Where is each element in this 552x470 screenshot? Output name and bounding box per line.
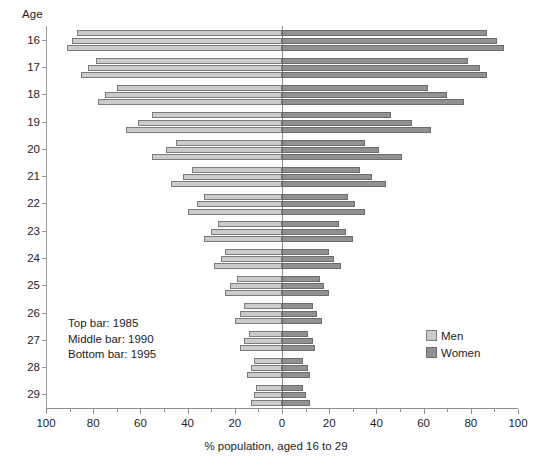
bar-order-note: Top bar: 1985 Middle bar: 1990 Bottom ba… xyxy=(68,316,156,363)
bar-men-age-19-1995 xyxy=(126,127,282,133)
x-tick-minor xyxy=(211,409,212,412)
bar-men-age-25-1995 xyxy=(225,290,282,296)
x-tick-label-80-right: 80 xyxy=(464,417,477,429)
y-tick-mark-29 xyxy=(42,394,46,395)
bar-women-age-26-1985 xyxy=(282,303,313,309)
bar-men-age-16-1990 xyxy=(72,38,282,44)
bar-men-age-21-1985 xyxy=(192,167,282,173)
bar-men-age-20-1990 xyxy=(166,147,282,153)
bar-women-age-28-1995 xyxy=(282,372,310,378)
note-line-3: Bottom bar: 1995 xyxy=(68,347,156,363)
x-tick-label-40-right: 40 xyxy=(370,417,383,429)
bar-women-age-29-1990 xyxy=(282,392,306,398)
bar-women-age-23-1995 xyxy=(282,236,353,242)
x-tick-minor xyxy=(494,409,495,412)
bar-men-age-29-1985 xyxy=(256,385,282,391)
bar-women-age-28-1985 xyxy=(282,358,303,364)
bar-men-age-17-1990 xyxy=(88,65,282,71)
bar-men-age-25-1985 xyxy=(237,276,282,282)
bar-women-age-17-1990 xyxy=(282,65,480,71)
y-tick-mark-17 xyxy=(42,67,46,68)
bar-men-age-22-1985 xyxy=(204,194,282,200)
x-tick-minor xyxy=(164,409,165,412)
bar-men-age-28-1995 xyxy=(247,372,282,378)
legend-swatch-women-icon xyxy=(426,347,437,358)
bar-men-age-27-1990 xyxy=(244,338,282,344)
x-tick-minor xyxy=(353,409,354,412)
bar-men-age-29-1995 xyxy=(251,400,282,406)
x-tick-80-right xyxy=(471,409,472,414)
bar-men-age-29-1990 xyxy=(254,392,282,398)
y-tick-mark-22 xyxy=(42,203,46,204)
bar-men-age-27-1985 xyxy=(249,331,282,337)
bar-women-age-16-1985 xyxy=(282,30,487,36)
bar-women-age-21-1985 xyxy=(282,167,360,173)
bar-men-age-23-1985 xyxy=(218,221,282,227)
bar-women-age-20-1985 xyxy=(282,140,365,146)
legend-label-men: Men xyxy=(441,330,463,342)
bar-men-age-26-1995 xyxy=(235,318,282,324)
bar-women-age-24-1995 xyxy=(282,263,341,269)
bar-women-age-18-1990 xyxy=(282,92,447,98)
x-tick-label-20-right: 20 xyxy=(323,417,336,429)
bar-women-age-26-1990 xyxy=(282,311,317,317)
bar-women-age-27-1985 xyxy=(282,331,308,337)
x-tick-label-40-left: 40 xyxy=(181,417,194,429)
bar-women-age-23-1990 xyxy=(282,229,346,235)
bar-men-age-20-1985 xyxy=(176,140,282,146)
x-tick-minor xyxy=(447,409,448,412)
x-tick-40-right xyxy=(376,409,377,414)
bar-men-age-18-1985 xyxy=(117,85,282,91)
y-tick-label-17: 17 xyxy=(14,61,40,73)
y-tick-mark-28 xyxy=(42,367,46,368)
bar-women-age-16-1990 xyxy=(282,38,497,44)
y-tick-label-20: 20 xyxy=(14,143,40,155)
legend: Men Women xyxy=(426,327,480,361)
y-tick-label-24: 24 xyxy=(14,252,40,264)
y-tick-mark-25 xyxy=(42,285,46,286)
bar-women-age-28-1990 xyxy=(282,365,308,371)
bar-women-age-18-1985 xyxy=(282,85,428,91)
population-pyramid-chart: Age 10080604020020406080100 161718192021… xyxy=(0,0,552,470)
x-tick-label-80-left: 80 xyxy=(87,417,100,429)
legend-label-women: Women xyxy=(441,347,480,359)
bar-women-age-24-1985 xyxy=(282,249,329,255)
bar-women-age-17-1995 xyxy=(282,72,487,78)
y-tick-label-25: 25 xyxy=(14,279,40,291)
y-tick-label-18: 18 xyxy=(14,88,40,100)
bar-men-age-23-1990 xyxy=(211,229,282,235)
x-tick-0-center xyxy=(282,409,283,414)
bar-women-age-19-1995 xyxy=(282,127,431,133)
bar-men-age-17-1995 xyxy=(81,72,282,78)
bar-men-age-26-1985 xyxy=(244,303,282,309)
bar-women-age-25-1985 xyxy=(282,276,320,282)
y-tick-label-19: 19 xyxy=(14,116,40,128)
bar-women-age-22-1990 xyxy=(282,201,355,207)
x-tick-label-60-left: 60 xyxy=(134,417,147,429)
x-tick-60-right xyxy=(424,409,425,414)
bar-men-age-22-1990 xyxy=(197,201,282,207)
y-tick-mark-19 xyxy=(42,122,46,123)
x-tick-100-left xyxy=(46,409,47,414)
bar-women-age-22-1985 xyxy=(282,194,348,200)
x-tick-60-left xyxy=(140,409,141,414)
bar-men-age-20-1995 xyxy=(152,154,282,160)
bar-women-age-25-1995 xyxy=(282,290,329,296)
bar-women-age-29-1985 xyxy=(282,385,303,391)
x-tick-label-100-right: 100 xyxy=(508,417,527,429)
x-tick-80-left xyxy=(93,409,94,414)
bar-women-age-21-1995 xyxy=(282,181,386,187)
bar-men-age-25-1990 xyxy=(230,283,282,289)
bar-women-age-24-1990 xyxy=(282,256,334,262)
x-tick-100-right xyxy=(518,409,519,414)
y-tick-label-28: 28 xyxy=(14,361,40,373)
y-axis-line xyxy=(46,26,47,408)
bar-women-age-16-1995 xyxy=(282,45,504,51)
x-tick-20-right xyxy=(329,409,330,414)
bar-men-age-23-1995 xyxy=(204,236,282,242)
y-tick-label-27: 27 xyxy=(14,334,40,346)
bar-women-age-19-1985 xyxy=(282,112,391,118)
x-tick-minor xyxy=(306,409,307,412)
bar-men-age-16-1995 xyxy=(67,45,282,51)
bar-women-age-17-1985 xyxy=(282,58,468,64)
